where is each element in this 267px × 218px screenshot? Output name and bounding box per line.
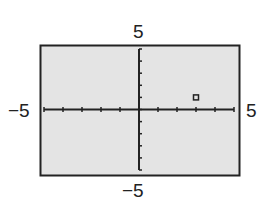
graph-screen <box>0 0 267 218</box>
